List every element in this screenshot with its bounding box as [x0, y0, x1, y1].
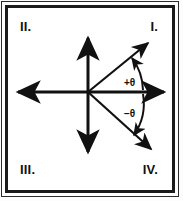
quadrant-angle-diagram: +θ −θ II. I. III. IV.: [0, 0, 183, 201]
negative-angle-arc: [134, 94, 144, 135]
positive-angle-label: +θ: [124, 78, 135, 88]
negative-angle-label: −θ: [124, 109, 135, 119]
terminal-ray-quadrant-I: [88, 43, 148, 92]
quadrant-label-four: IV.: [143, 163, 158, 176]
quadrant-label-one: I.: [150, 20, 158, 33]
plot-area: +θ −θ II. I. III. IV.: [8, 8, 172, 190]
quadrant-label-two: II.: [20, 20, 31, 33]
quadrant-label-three: III.: [20, 163, 35, 176]
